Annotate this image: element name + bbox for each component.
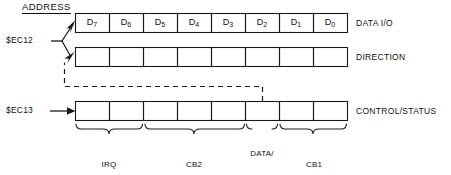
data-dir-switch-feedback-path — [65, 63, 263, 102]
brace-data-dir-switch — [247, 124, 278, 129]
bit-cell-d2-index: 2 — [263, 21, 267, 28]
bit-cell-d2: D2 — [245, 18, 279, 27]
group-label-cb2-control-line1: CB2 — [164, 160, 224, 170]
bit-cell-d6: D6 — [109, 18, 143, 27]
group-label-data-dir-switch-line1: DATA/ — [232, 149, 292, 159]
address-heading: ADDRESS — [22, 2, 71, 14]
group-label-irq-status: IRQ STATUS — [79, 141, 139, 175]
bit-cell-d6-index: 6 — [127, 21, 131, 28]
bit-cell-d0: D0 — [313, 18, 347, 27]
bit-cell-d5: D5 — [143, 18, 177, 27]
row-name-control-status: CONTROL/STATUS — [356, 107, 436, 116]
bit-cell-d0-index: 0 — [331, 21, 335, 28]
bit-cell-d5-index: 5 — [161, 21, 165, 28]
group-label-cb2-control: CB2 CONTROL — [164, 141, 224, 175]
ec12-arrowheads — [65, 21, 76, 64]
row-control-status-boxes — [76, 102, 348, 121]
address-label-ec12: $EC12 — [6, 36, 33, 45]
bit-cell-d7: D7 — [75, 18, 109, 27]
row-name-direction: DIRECTION — [356, 53, 405, 62]
row-direction-boxes — [76, 48, 348, 67]
address-label-ec13: $EC13 — [6, 106, 33, 115]
group-label-cb1-control: CB1 CONTROL — [284, 141, 344, 175]
brace-irq-status — [76, 124, 143, 134]
row-name-data-io: DATA I/O — [356, 19, 393, 28]
group-label-irq-status-line1: IRQ — [79, 160, 139, 170]
brace-cb2-control — [145, 124, 245, 134]
bit-cell-d3: D3 — [211, 18, 245, 27]
register-map-diagram: ADDRESS $EC12 $EC13 DATA I/O DIRECTION C… — [0, 0, 451, 175]
bit-cell-d4: D4 — [177, 18, 211, 27]
bit-cell-d1-index: 1 — [297, 21, 301, 28]
group-label-data-dir-switch: DATA/ DIR. SWITCH — [232, 130, 292, 175]
bit-cell-d4-index: 4 — [195, 21, 199, 28]
ec12-connector — [51, 24, 73, 57]
group-label-cb1-control-line1: CB1 — [284, 160, 344, 170]
bit-cell-d7-index: 7 — [93, 21, 97, 28]
bit-cell-d3-index: 3 — [229, 21, 233, 28]
bit-cell-d1: D1 — [279, 18, 313, 27]
ec13-connector — [50, 107, 76, 115]
